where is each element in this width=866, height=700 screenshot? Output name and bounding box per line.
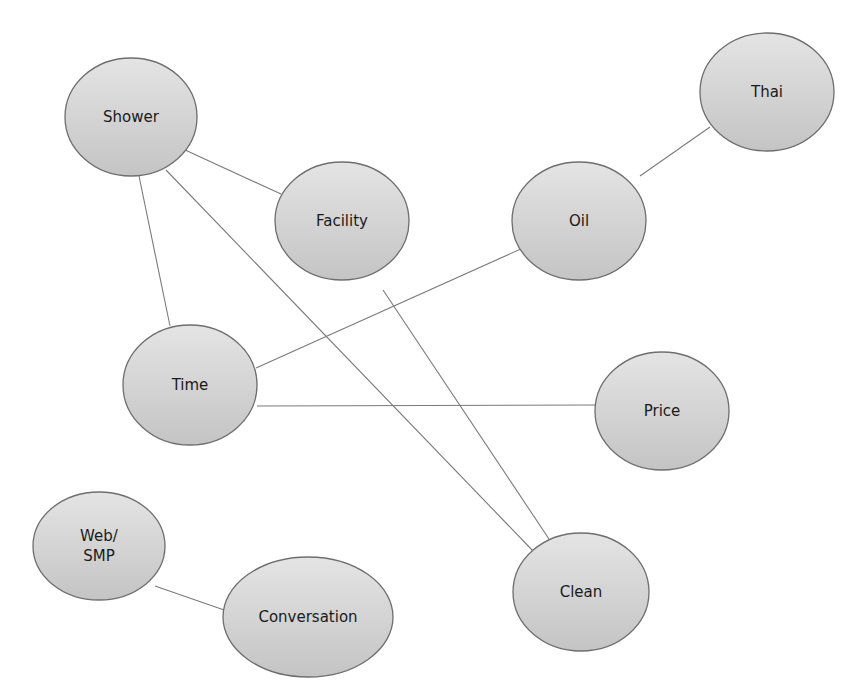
node-thai[interactable]: Thai xyxy=(700,33,834,151)
node-shower[interactable]: Shower xyxy=(65,58,197,176)
node-label: Oil xyxy=(569,212,589,230)
node-web_smp[interactable]: Web/SMP xyxy=(33,492,165,600)
node-label: Conversation xyxy=(258,608,357,626)
edge-time-oil xyxy=(256,248,523,368)
edge-shower-facility xyxy=(183,149,281,194)
node-label: Price xyxy=(644,402,681,420)
node-label: Web/ xyxy=(80,527,119,545)
edge-shower-time xyxy=(139,176,170,326)
node-label: Facility xyxy=(316,212,368,230)
edge-web_smp-conversation xyxy=(155,586,227,611)
node-label: Clean xyxy=(560,583,603,601)
edge-oil-thai xyxy=(640,127,710,176)
edge-facility-clean xyxy=(383,290,549,539)
node-conversation[interactable]: Conversation xyxy=(223,557,393,677)
nodes-layer: ShowerFacilityOilThaiTimePriceWeb/SMPCon… xyxy=(33,33,834,677)
node-time[interactable]: Time xyxy=(123,325,257,445)
node-label: Shower xyxy=(103,108,160,126)
node-facility[interactable]: Facility xyxy=(275,162,409,280)
node-oil[interactable]: Oil xyxy=(512,162,646,280)
edge-time-price xyxy=(257,405,596,406)
node-label: SMP xyxy=(83,547,115,565)
node-label: Time xyxy=(171,376,209,394)
node-label: Thai xyxy=(750,83,783,101)
node-clean[interactable]: Clean xyxy=(513,533,649,651)
concept-map-diagram: ShowerFacilityOilThaiTimePriceWeb/SMPCon… xyxy=(0,0,866,700)
node-price[interactable]: Price xyxy=(595,352,729,470)
